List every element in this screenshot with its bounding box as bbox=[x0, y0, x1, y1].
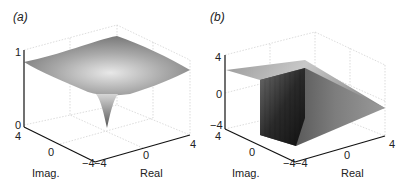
panel-a-real-axis-label: Real bbox=[140, 167, 163, 179]
panel-a-imag-tick-bot: −4 bbox=[82, 157, 95, 169]
panel-a-real-tick-mid: 0 bbox=[143, 149, 149, 161]
panel-b-imag-axis-label: Imag. bbox=[232, 167, 260, 179]
panel-b-label: (b) bbox=[210, 10, 225, 24]
panel-a-real-tick-right: 4 bbox=[190, 138, 196, 150]
panel-b-real-tick-right: 4 bbox=[389, 138, 395, 150]
panel-a-surface bbox=[24, 36, 190, 95]
panel-b-z-tick-top: 4 bbox=[215, 51, 221, 63]
panel-b-discontinuity-wall bbox=[260, 68, 305, 146]
panel-a-z-tick-top: 1 bbox=[15, 46, 21, 58]
panel-b-imag-tick-bot: −4 bbox=[283, 157, 296, 169]
panel-a-imag-tick-mid: 0 bbox=[48, 146, 54, 158]
panel-a-imag-axis-label: Imag. bbox=[32, 167, 60, 179]
panel-b: (b) 4 0 −4 4 bbox=[210, 10, 395, 179]
panel-b-real-tick-left: −4 bbox=[295, 157, 308, 169]
panel-b-real-tick-mid: 0 bbox=[344, 149, 350, 161]
panel-b-imag-tick-top: 4 bbox=[215, 130, 221, 142]
panel-a-cusp bbox=[96, 94, 118, 128]
panel-a-label: (a) bbox=[13, 10, 28, 24]
figure: (a) 1 0 4 0 −4 −4 0 4 Imag. R bbox=[0, 0, 405, 187]
panel-b-z-tick-mid: 0 bbox=[216, 88, 222, 100]
panel-b-imag-tick-mid: 0 bbox=[249, 146, 255, 158]
panel-a-imag-tick-top: 4 bbox=[15, 130, 21, 142]
panel-a: (a) 1 0 4 0 −4 −4 0 4 Imag. R bbox=[13, 10, 196, 179]
panel-b-real-axis-label: Real bbox=[341, 167, 364, 179]
panel-a-real-tick-left: −4 bbox=[94, 157, 107, 169]
